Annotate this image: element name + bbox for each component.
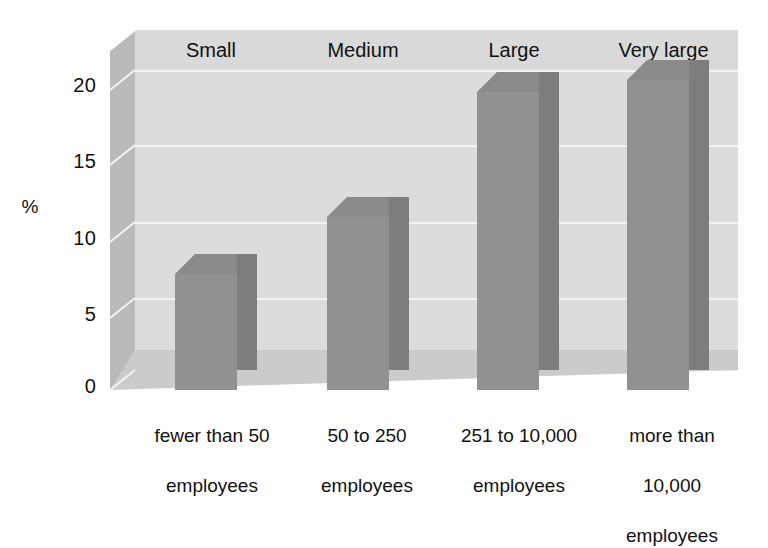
- category-header-large: Large: [439, 36, 589, 64]
- bar-medium-side: [389, 197, 409, 370]
- x-caption-small-line2: employees: [166, 475, 258, 496]
- category-header-small: Small: [135, 36, 287, 64]
- bar-medium[interactable]: [327, 197, 389, 390]
- x-caption-large-line1: 251 to 10,000: [461, 425, 577, 446]
- bar-medium-front: [327, 217, 389, 390]
- y-tick-5: 5: [50, 303, 96, 326]
- bar-large[interactable]: [477, 72, 539, 390]
- bar-small-side: [237, 254, 257, 370]
- y-axis-title: %: [10, 196, 50, 218]
- y-tick-0: 0: [50, 375, 96, 398]
- x-caption-medium-line2: employees: [321, 475, 413, 496]
- x-caption-small: fewer than 50 employees: [132, 398, 292, 498]
- bar-very-large-side: [689, 60, 709, 370]
- bar-small-front: [175, 274, 237, 390]
- bar-large-side: [539, 72, 559, 370]
- x-caption-very-large: more than 10,000 employees: [592, 398, 752, 548]
- category-header-medium: Medium: [287, 36, 439, 64]
- x-caption-very-large-line3: employees: [626, 525, 718, 546]
- plot-side-wall: [110, 30, 135, 390]
- x-caption-very-large-line2: 10,000: [643, 475, 701, 496]
- bar-small[interactable]: [175, 254, 237, 390]
- x-caption-large: 251 to 10,000 employees: [434, 398, 604, 498]
- x-caption-medium-line1: 50 to 250: [327, 425, 406, 446]
- bar-large-front: [477, 92, 539, 390]
- bar-very-large-front: [627, 80, 689, 390]
- x-caption-large-line2: employees: [473, 475, 565, 496]
- y-tick-20: 20: [50, 74, 96, 97]
- y-tick-15: 15: [50, 150, 96, 173]
- y-tick-10: 10: [50, 227, 96, 250]
- x-caption-medium: 50 to 250 employees: [287, 398, 447, 498]
- bar-very-large[interactable]: [627, 60, 689, 390]
- x-caption-small-line1: fewer than 50: [154, 425, 269, 446]
- x-caption-very-large-line1: more than: [629, 425, 715, 446]
